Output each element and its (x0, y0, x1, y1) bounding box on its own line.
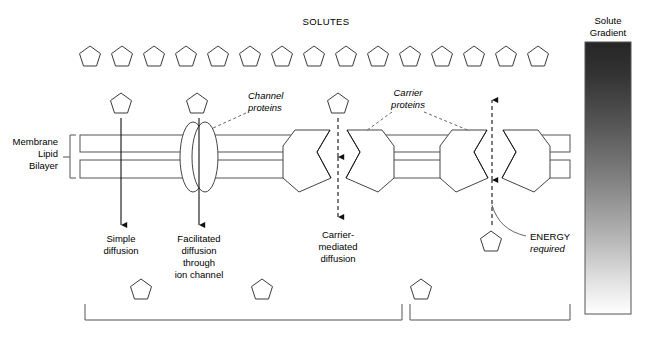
bracket-active-transport (410, 304, 570, 320)
facilitated-diffusion-label-line1: Facilitated (177, 233, 220, 244)
solute-pentagon (432, 46, 453, 66)
solute-pentagon (240, 46, 261, 66)
energy-required-label: required (530, 243, 566, 254)
carrier-mediated-label-line1: Carrier- (322, 229, 354, 240)
solute-pentagon (304, 46, 325, 66)
carrier-proteins-leader-left (366, 112, 392, 131)
gradient-title-line1: Solute (595, 15, 622, 26)
solute-pentagon (272, 46, 293, 66)
solute-pentagon (80, 46, 101, 66)
bracket-passive-transport (85, 304, 402, 320)
membrane-label-line2: Lipid (38, 148, 58, 159)
facilitated-diffusion-label-line2: diffusion (181, 245, 216, 256)
membrane-label-line3: Bilayer (29, 160, 58, 171)
carrier-mediated-label-line2: mediated (318, 241, 357, 252)
carrier-proteins-label-line1: Carrier (393, 87, 423, 98)
channel-proteins-label-line1: Channel (248, 90, 284, 101)
solute-pentagon (187, 93, 208, 113)
solute-pentagon (176, 46, 197, 66)
solute-row-top (80, 46, 549, 66)
membrane-transport-diagram: SOLUTES (0, 0, 652, 342)
channel-proteins-label-line2: proteins (247, 102, 282, 113)
solute-pentagon (336, 46, 357, 66)
solute-pentagon (252, 279, 273, 299)
facilitated-diffusion-label-line4: ion channel (175, 269, 224, 280)
facilitated-diffusion-label-line3: through (183, 257, 215, 268)
solute-pentagon (111, 93, 132, 113)
carrier-proteins-leader-right (424, 112, 470, 131)
simple-diffusion-label-line2: diffusion (103, 245, 138, 256)
gradient-title-line2: Gradient (590, 27, 627, 38)
channel-protein-right (192, 122, 218, 192)
solute-pentagon (131, 279, 152, 299)
solute-pentagon (112, 46, 133, 66)
solute-pentagon (328, 93, 349, 113)
solute-pentagon (411, 279, 432, 299)
channel-proteins-leader (211, 113, 246, 129)
solute-pentagon (208, 46, 229, 66)
page-title: SOLUTES (302, 16, 349, 27)
solute-pentagon (496, 46, 517, 66)
solute-pentagon (528, 46, 549, 66)
solute-pentagon (400, 46, 421, 66)
carrier-mediated-label-line3: diffusion (320, 253, 355, 264)
carrier-protein-pair-right (440, 130, 550, 192)
energy-label: ENERGY (530, 231, 571, 242)
simple-diffusion-label-line1: Simple (106, 233, 135, 244)
solute-pentagon (368, 46, 389, 66)
solute-row-mid (111, 93, 349, 113)
membrane-label-line1: Membrane (13, 136, 58, 147)
solute-gradient-bar (585, 42, 631, 314)
carrier-proteins-label-line2: proteins (390, 99, 425, 110)
diagram-root: SOLUTES (0, 0, 652, 342)
membrane-label-bracket (63, 135, 76, 178)
solute-pentagon (481, 231, 502, 251)
solute-pentagon (144, 46, 165, 66)
energy-leader (492, 205, 526, 236)
solute-pentagon (464, 46, 485, 66)
